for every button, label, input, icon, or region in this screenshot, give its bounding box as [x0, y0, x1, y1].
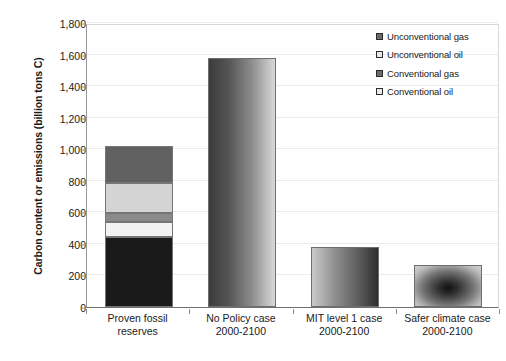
bar-no-policy-case [208, 58, 276, 307]
legend-item-label: Unconventional oil [387, 49, 463, 60]
bar-mit-level-1-case [311, 247, 379, 307]
legend-item[interactable]: Unconventional oil [376, 46, 469, 65]
y-axis-tick-mark [82, 181, 86, 182]
x-axis-category-label: MIT level 1 case 2000-2100 [293, 312, 396, 337]
legend-item-label: Conventional oil [387, 86, 453, 97]
legend-swatch-icon [376, 33, 383, 40]
x-axis-tick-mark [499, 309, 500, 314]
legend-item[interactable]: Unconventional gas [376, 27, 469, 46]
x-axis-category-label: No Policy case 2000-2100 [189, 312, 292, 337]
y-axis-tick-mark [82, 55, 86, 56]
y-axis-tick-mark [82, 244, 86, 245]
x-axis-tick-mark [293, 309, 294, 314]
y-axis-tick-mark [82, 213, 86, 214]
y-axis-tick-label: 1,000 [16, 144, 92, 156]
bar-proven-fossil-reserves [105, 145, 173, 307]
legend-item-label: Unconventional gas [387, 31, 469, 42]
y-axis-tick-label: 400 [16, 239, 92, 251]
gridline [87, 117, 498, 118]
bar-safer-climate-case [414, 265, 482, 307]
y-axis-tick-label: 1,800 [16, 18, 92, 30]
bar-segment [105, 183, 173, 213]
bar-segment [105, 213, 173, 222]
bar-segment [105, 237, 173, 307]
bar-segment [105, 146, 173, 183]
y-axis-tick-mark [82, 87, 86, 88]
y-axis-tick-label: 1,400 [16, 81, 92, 93]
y-axis-tick-label: 0 [16, 302, 92, 314]
x-axis-tick-mark [396, 309, 397, 314]
legend-item-label: Conventional gas [387, 68, 459, 79]
carbon-content-bar-chart: Carbon content or emissions (billion ton… [0, 0, 506, 361]
y-axis-tick-mark [82, 150, 86, 151]
y-axis-tick-label: 200 [16, 270, 92, 282]
y-axis-tick-mark [82, 24, 86, 25]
chart-legend: Unconventional gasUnconventional oilConv… [376, 27, 469, 101]
y-axis-tick-label: 600 [16, 207, 92, 219]
y-axis-tick-label: 800 [16, 176, 92, 188]
bar-segment [105, 222, 173, 237]
legend-swatch-icon [376, 70, 383, 77]
y-axis-tick-label: 1,600 [16, 50, 92, 62]
x-axis-category-label: Proven fossil reserves [86, 312, 189, 337]
y-axis-tick-mark [82, 118, 86, 119]
x-axis-category-label: Safer climate case 2000-2100 [396, 312, 499, 337]
x-axis-tick-mark [86, 309, 87, 314]
y-axis-tick-mark [82, 276, 86, 277]
y-axis-tick-label: 1,200 [16, 113, 92, 125]
legend-swatch-icon [376, 88, 383, 95]
legend-item[interactable]: Conventional gas [376, 64, 469, 83]
legend-item[interactable]: Conventional oil [376, 83, 469, 102]
legend-swatch-icon [376, 51, 383, 58]
gridline [87, 22, 498, 23]
x-axis-tick-mark [189, 309, 190, 314]
